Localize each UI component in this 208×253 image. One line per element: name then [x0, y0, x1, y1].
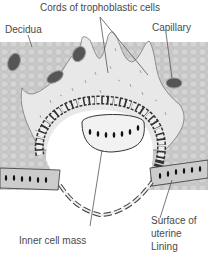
- label-surface-2: uterine: [151, 228, 182, 239]
- label-capillary: Capillary: [152, 22, 191, 33]
- label-inner-cell-mass: Inner cell mass: [19, 235, 86, 246]
- label-cords: Cords of trophoblastic cells: [40, 2, 160, 13]
- label-surface-1: Surface of: [151, 215, 197, 226]
- label-decidua: Decidua: [5, 24, 42, 35]
- label-surface-3: Lining: [151, 241, 178, 252]
